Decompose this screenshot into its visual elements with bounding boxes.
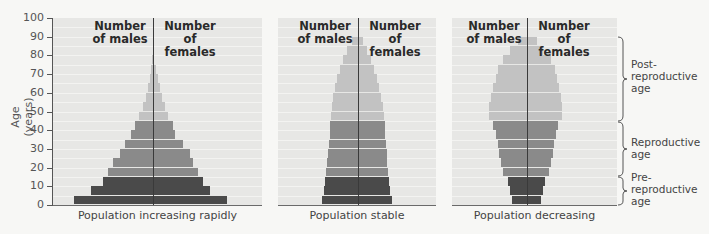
y-tick-label: 40 [17,124,44,136]
y-tick-label: 50 [17,106,44,118]
male-bar [103,177,153,186]
female-bar [153,149,190,158]
bracket-label-line: age [631,82,698,94]
male-bar [493,83,527,92]
female-bar [527,168,549,177]
male-bar [510,186,527,195]
x-baseline [452,205,617,206]
female-bar [153,83,160,92]
female-bar [527,177,545,186]
y-tick-label: 90 [17,31,44,43]
male-bar [489,102,527,111]
male-bar [324,186,358,195]
y-tick-mark [47,149,52,150]
female-bar [527,186,543,195]
female-bar [358,158,387,167]
bracket-label-line: age [631,148,700,160]
bracket-label-post-reproductive: Post- reproductive age [631,58,698,94]
male-bar [333,93,358,102]
male-bar [498,65,527,74]
bracket-label-line: Pre- [631,171,698,183]
female-bar [358,186,390,195]
header-line: of females [362,33,428,59]
female-bar [153,158,193,167]
female-bar [153,102,165,111]
female-bar [153,121,173,130]
male-bar [143,102,153,111]
center-divider-line [358,18,359,205]
male-bar [503,55,527,64]
male-bar [113,158,153,167]
female-bar [153,140,183,149]
female-bar [358,74,377,83]
y-tick-label: 60 [17,87,44,99]
female-bar [358,65,374,74]
y-tick-label: 100 [17,12,44,24]
header-line: of females [531,33,597,59]
female-bar [153,186,210,195]
female-bar [527,74,557,83]
header-line: of males [91,33,149,46]
bracket-label-line: Post- [631,58,698,70]
female-bar [527,121,558,130]
female-bar [358,177,389,186]
header-line: of females [157,33,223,59]
male-bar [125,140,153,149]
male-bar [327,158,358,167]
male-bar [328,149,358,158]
female-bar [358,83,379,92]
x-baseline [278,205,436,206]
male-bar [496,74,527,83]
male-bar [510,46,527,55]
male-bar [512,196,527,205]
female-bar [527,112,562,121]
male-bar [74,196,153,205]
male-bar [131,130,153,139]
male-bar [343,55,358,64]
male-bar [499,149,527,158]
header-number-of-females: Numberof females [531,20,597,59]
header-number-of-females: Numberof females [157,20,223,59]
male-bar [330,130,358,139]
male-bar [498,140,527,149]
male-bar [489,112,527,121]
male-bar [340,65,358,74]
male-bar [325,177,358,186]
male-bar [139,112,153,121]
bracket-label-line: Reproductive [631,136,700,148]
male-bar [326,168,358,177]
y-tick-mark [47,37,52,38]
y-tick-label: 80 [17,49,44,61]
male-bar [493,121,527,130]
x-baseline [53,205,262,206]
male-bar [91,186,153,195]
female-bar [358,196,392,205]
female-bar [358,140,386,149]
male-bar [347,46,358,55]
male-bar [135,121,153,130]
female-bar [153,168,198,177]
male-bar [120,149,153,158]
male-bar [329,140,358,149]
female-bar [527,158,551,167]
female-bar [153,177,203,186]
male-bar [331,112,358,121]
y-tick-mark [47,205,52,206]
female-bar [527,196,541,205]
female-bar [153,93,162,102]
male-bar [503,168,527,177]
female-bar [153,130,175,139]
y-tick-mark [47,18,52,19]
female-bar [153,196,227,205]
male-bar [332,102,358,111]
female-bar [358,112,384,121]
male-bar [330,121,358,130]
bracket-label-line: reproductive [631,70,698,82]
y-tick-label: 30 [17,143,44,155]
female-bar [358,121,385,130]
male-bar [108,168,153,177]
center-divider-line [153,18,154,205]
y-tick-label: 0 [17,199,44,211]
y-tick-label: 10 [17,180,44,192]
male-bar [491,93,527,102]
